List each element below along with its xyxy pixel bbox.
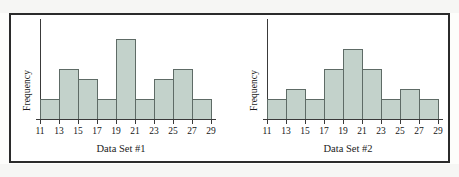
x-axis-tick: [362, 120, 363, 124]
y-axis-label-2: Frequency: [249, 70, 259, 111]
histogram-bar: [286, 89, 306, 119]
x-axis-tick: [40, 120, 41, 124]
x-axis-tick: [419, 120, 420, 124]
x-axis-tick: [97, 120, 98, 124]
x-axis-tick-label: 29: [200, 126, 222, 136]
x-axis-tick-label: 29: [427, 126, 449, 136]
x-axis-tick: [381, 120, 382, 124]
figure-frame: Frequency 11131517192123252729 Data Set …: [9, 13, 450, 163]
plot-area-2: Frequency 11131517192123252729 Data Set …: [225, 15, 450, 165]
x-axis-tick: [438, 120, 439, 124]
x-axis-tick: [324, 120, 325, 124]
x-axis-label-1: Data Set #1: [31, 143, 211, 154]
histogram-panel-dataset-2: Frequency 11131517192123252729 Data Set …: [225, 15, 450, 165]
x-axis-tick: [192, 120, 193, 124]
histogram-panel-dataset-1: Frequency 11131517192123252729 Data Set …: [13, 15, 223, 165]
x-axis-tick: [286, 120, 287, 124]
histogram-bar: [192, 99, 212, 119]
x-axis-tick: [211, 120, 212, 124]
y-axis-label-1: Frequency: [22, 70, 32, 111]
x-axis-tick: [116, 120, 117, 124]
x-axis-tick: [267, 120, 268, 124]
x-axis-tick: [173, 120, 174, 124]
histogram-bar: [135, 99, 155, 119]
histogram-bar: [343, 49, 363, 119]
histogram-bar: [40, 99, 60, 119]
histogram-bar: [97, 99, 117, 119]
x-axis-tick: [305, 120, 306, 124]
histogram-bar: [173, 69, 193, 119]
x-axis-line-1: [36, 119, 216, 120]
x-axis-tick: [400, 120, 401, 124]
x-axis-label-2: Data Set #2: [258, 143, 438, 154]
histogram-bar: [400, 89, 420, 119]
x-axis-tick: [343, 120, 344, 124]
plot-area-1: Frequency 11131517192123252729 Data Set …: [13, 15, 223, 165]
histogram-bar: [116, 39, 136, 119]
histogram-bar: [154, 79, 174, 119]
histogram-bar: [324, 69, 344, 119]
histogram-bar: [362, 69, 382, 119]
scan-texture-bottom: [0, 164, 459, 177]
histogram-bar: [305, 99, 325, 119]
scan-texture-top: [0, 0, 459, 13]
histogram-bar: [78, 79, 98, 119]
histogram-bar: [381, 99, 401, 119]
x-axis-tick: [59, 120, 60, 124]
x-axis-tick: [78, 120, 79, 124]
x-axis-line-2: [263, 119, 443, 120]
figure-page: Frequency 11131517192123252729 Data Set …: [0, 0, 459, 177]
histogram-bar: [419, 99, 439, 119]
x-axis-tick: [154, 120, 155, 124]
histogram-bar: [59, 69, 79, 119]
x-axis-tick: [135, 120, 136, 124]
histogram-bar: [267, 99, 287, 119]
